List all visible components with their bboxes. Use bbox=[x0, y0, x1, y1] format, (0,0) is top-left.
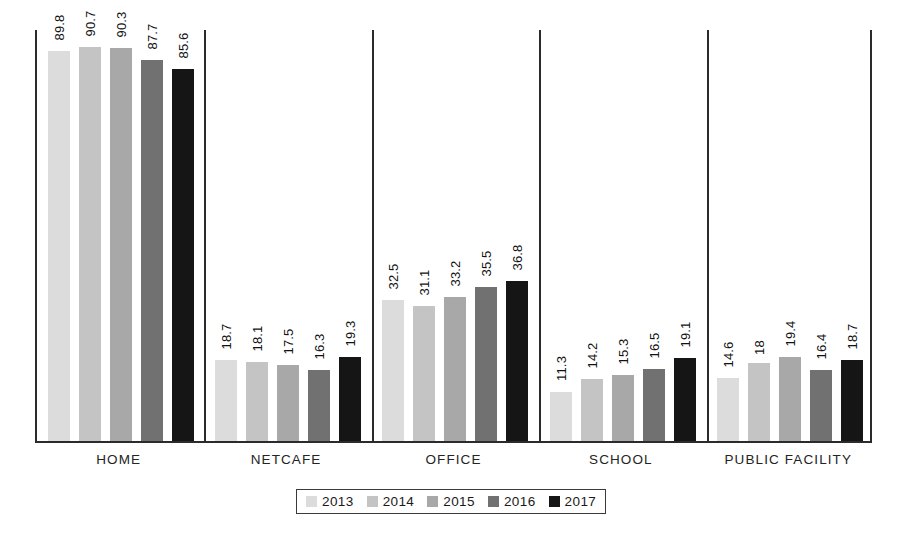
bar-value-label: 90.3 bbox=[114, 12, 127, 38]
bar-value-label: 33.2 bbox=[449, 260, 462, 286]
legend-swatch-icon bbox=[367, 496, 378, 507]
bar-slot: 18 bbox=[748, 30, 770, 441]
bar-slot: 90.7 bbox=[79, 30, 101, 441]
bar-value-label: 14.6 bbox=[722, 341, 735, 367]
category-label: HOME bbox=[35, 452, 202, 467]
legend-swatch-icon bbox=[306, 496, 317, 507]
bar-2016[interactable] bbox=[141, 60, 163, 441]
bar-value-label: 16.3 bbox=[313, 334, 326, 360]
legend-item-2017[interactable]: 2017 bbox=[549, 495, 597, 509]
bar-value-label: 18.7 bbox=[220, 323, 233, 349]
bar-slot: 31.1 bbox=[413, 30, 435, 441]
bar-value-label: 19.1 bbox=[678, 321, 691, 347]
legend-label: 2016 bbox=[504, 495, 536, 509]
bar-group: 32.531.133.235.536.8 bbox=[372, 30, 539, 441]
bar-value-label: 89.8 bbox=[52, 14, 65, 40]
category-label: PUBLIC FACILITY bbox=[705, 452, 872, 467]
legend-label: 2014 bbox=[383, 495, 415, 509]
bar-slot: 87.7 bbox=[141, 30, 163, 441]
bar-slot: 18.7 bbox=[215, 30, 237, 441]
bar-group: 11.314.215.316.519.1 bbox=[539, 30, 706, 441]
bar-2013[interactable] bbox=[48, 51, 70, 441]
bar-slot: 11.3 bbox=[550, 30, 572, 441]
chart-legend[interactable]: 20132014201520162017 bbox=[296, 489, 606, 514]
bars-row: 14.61819.416.418.7 bbox=[707, 30, 874, 441]
bar-2015[interactable] bbox=[444, 297, 466, 441]
bar-value-label: 35.5 bbox=[480, 250, 493, 276]
legend-label: 2013 bbox=[322, 495, 354, 509]
bar-2013[interactable] bbox=[215, 360, 237, 441]
bar-value-label: 15.3 bbox=[616, 338, 629, 364]
bar-slot: 35.5 bbox=[475, 30, 497, 441]
bar-2015[interactable] bbox=[779, 357, 801, 441]
bar-2016[interactable] bbox=[810, 370, 832, 441]
bar-2016[interactable] bbox=[308, 370, 330, 441]
bar-slot: 14.6 bbox=[717, 30, 739, 441]
bar-2015[interactable] bbox=[612, 375, 634, 442]
bar-group: 18.718.117.516.319.3 bbox=[204, 30, 371, 441]
bar-value-label: 17.5 bbox=[282, 328, 295, 354]
bar-slot: 19.1 bbox=[674, 30, 696, 441]
bar-slot: 15.3 bbox=[612, 30, 634, 441]
bar-slot: 36.8 bbox=[506, 30, 528, 441]
bar-2013[interactable] bbox=[550, 392, 572, 441]
bar-2015[interactable] bbox=[110, 48, 132, 441]
bar-value-label: 31.1 bbox=[418, 269, 431, 295]
legend-item-2016[interactable]: 2016 bbox=[488, 495, 536, 509]
bar-value-label: 19.3 bbox=[344, 321, 357, 347]
bar-slot: 85.6 bbox=[172, 30, 194, 441]
bar-slot: 17.5 bbox=[277, 30, 299, 441]
legend-label: 2017 bbox=[565, 495, 597, 509]
legend-swatch-icon bbox=[488, 496, 499, 507]
bar-value-label: 16.4 bbox=[815, 333, 828, 359]
bar-2013[interactable] bbox=[717, 378, 739, 441]
bars-row: 32.531.133.235.536.8 bbox=[372, 30, 539, 441]
bar-slot: 32.5 bbox=[382, 30, 404, 441]
bars-row: 89.890.790.387.785.6 bbox=[37, 30, 204, 441]
bar-slot: 19.3 bbox=[339, 30, 361, 441]
category-label: NETCAFE bbox=[202, 452, 369, 467]
bar-2013[interactable] bbox=[382, 300, 404, 441]
bar-2017[interactable] bbox=[172, 69, 194, 441]
bar-slot: 90.3 bbox=[110, 30, 132, 441]
category-label: SCHOOL bbox=[537, 452, 704, 467]
bar-2017[interactable] bbox=[674, 358, 696, 441]
legend-item-2013[interactable]: 2013 bbox=[306, 495, 354, 509]
bar-2014[interactable] bbox=[79, 47, 101, 441]
bar-slot: 19.4 bbox=[779, 30, 801, 441]
bar-2014[interactable] bbox=[581, 379, 603, 441]
bar-slot: 16.5 bbox=[643, 30, 665, 441]
bar-2016[interactable] bbox=[475, 287, 497, 441]
bar-2017[interactable] bbox=[841, 360, 863, 441]
bar-2014[interactable] bbox=[413, 306, 435, 441]
bar-value-label: 18.7 bbox=[846, 323, 859, 349]
legend-item-2014[interactable]: 2014 bbox=[367, 495, 415, 509]
bar-value-label: 32.5 bbox=[387, 263, 400, 289]
bar-slot: 14.2 bbox=[581, 30, 603, 441]
bar-2016[interactable] bbox=[643, 369, 665, 441]
legend-swatch-icon bbox=[549, 496, 560, 507]
legend-item-2015[interactable]: 2015 bbox=[427, 495, 475, 509]
plot-area: 89.890.790.387.785.618.718.117.516.319.3… bbox=[35, 30, 872, 443]
bar-slot: 16.3 bbox=[308, 30, 330, 441]
bar-2017[interactable] bbox=[506, 281, 528, 441]
legend-label: 2015 bbox=[443, 495, 475, 509]
bar-2014[interactable] bbox=[246, 362, 268, 441]
bar-slot: 18.1 bbox=[246, 30, 268, 441]
bars-row: 18.718.117.516.319.3 bbox=[204, 30, 371, 441]
bar-value-label: 18 bbox=[753, 340, 766, 355]
bar-value-label: 14.2 bbox=[585, 343, 598, 369]
category-label: OFFICE bbox=[370, 452, 537, 467]
bar-2017[interactable] bbox=[339, 357, 361, 441]
bar-2015[interactable] bbox=[277, 365, 299, 441]
bar-value-label: 87.7 bbox=[145, 23, 158, 49]
bar-value-label: 16.5 bbox=[647, 333, 660, 359]
bar-value-label: 19.4 bbox=[784, 320, 797, 346]
bar-group: 14.61819.416.418.7 bbox=[707, 30, 874, 441]
bar-value-label: 85.6 bbox=[176, 32, 189, 58]
bar-value-label: 18.1 bbox=[251, 326, 264, 352]
bar-2014[interactable] bbox=[748, 363, 770, 441]
legend-swatch-icon bbox=[427, 496, 438, 507]
bar-slot: 18.7 bbox=[841, 30, 863, 441]
bar-slot: 89.8 bbox=[48, 30, 70, 441]
